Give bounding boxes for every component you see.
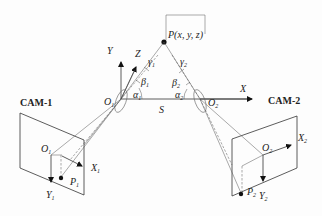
z-axis-label: Z (135, 48, 141, 59)
p1-label: P1 (69, 176, 79, 188)
o1-image-origin-label: O1 (41, 143, 51, 155)
point-label: P(x, y, z) (167, 29, 204, 41)
gamma2-label: γ2 (180, 56, 187, 68)
baseline-label: S (159, 104, 164, 115)
o2-image-origin-label: O2 (262, 142, 272, 154)
cam2-label: CAM-2 (268, 95, 300, 106)
o1-center-label: O1 (104, 96, 114, 108)
stereo-vision-diagram: P(x, y, z) Y Z X S γ1 β1 α1 γ2 β2 α2 O1 … (0, 0, 322, 216)
y2-label: Y2 (259, 190, 268, 202)
x-axis-label: X (239, 83, 247, 94)
alpha2-label: α2 (175, 89, 183, 101)
y-axis-label: Y (107, 45, 114, 56)
cam1-label: CAM-1 (20, 97, 52, 108)
camera-right-plane (200, 99, 297, 196)
p2-dot (239, 192, 243, 196)
p2-label: P2 (246, 186, 256, 198)
alpha1-label: α1 (133, 89, 141, 101)
x1-label: X1 (90, 162, 100, 174)
y1-label: Y1 (46, 189, 55, 201)
beta1-label: β1 (140, 76, 149, 88)
lens-right-icon (191, 88, 209, 114)
gamma1-label: γ1 (148, 56, 155, 68)
diagram-canvas: P(x, y, z) Y Z X S γ1 β1 α1 γ2 β2 α2 O1 … (0, 0, 322, 216)
beta2-label: β2 (171, 77, 180, 89)
p1-dot (59, 176, 63, 180)
x2-label: X2 (297, 132, 307, 144)
